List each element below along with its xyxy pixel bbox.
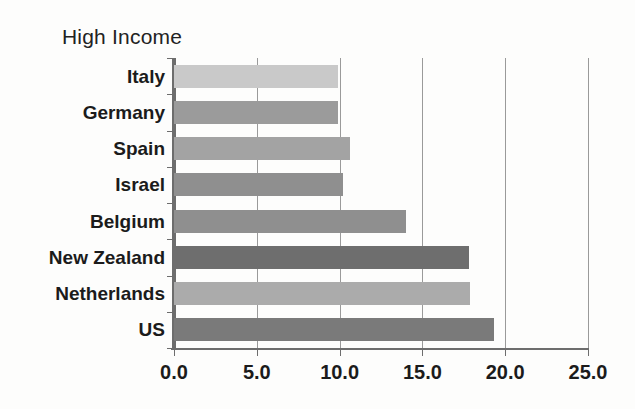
- y-tick: [167, 276, 174, 277]
- bar-new-zealand: [174, 246, 469, 269]
- bar-row: US: [174, 312, 588, 348]
- category-label-new-zealand: New Zealand: [49, 248, 165, 267]
- chart-title: High Income: [62, 25, 182, 49]
- category-label-us: US: [139, 320, 165, 339]
- category-label-netherlands: Netherlands: [55, 284, 165, 303]
- bar-israel: [174, 173, 343, 196]
- bar-row: Germany: [174, 94, 588, 130]
- bar-row: Italy: [174, 58, 588, 94]
- x-tick: [505, 348, 506, 356]
- x-tick: [174, 348, 175, 356]
- y-tick: [167, 239, 174, 240]
- x-tick: [340, 348, 341, 356]
- bar-row: Spain: [174, 131, 588, 167]
- gridline-25: [588, 58, 589, 348]
- y-tick: [167, 131, 174, 132]
- bar-row: Belgium: [174, 203, 588, 239]
- x-tick: [422, 348, 423, 356]
- bar-italy: [174, 65, 338, 88]
- x-tick: [588, 348, 589, 356]
- x-tick: [257, 348, 258, 356]
- y-tick: [167, 58, 174, 59]
- x-tick-label-20: 20.0: [486, 361, 525, 384]
- bar-chart: High Income ItalyGermanySpainIsraelBelgi…: [0, 0, 635, 409]
- category-label-germany: Germany: [83, 103, 165, 122]
- category-label-spain: Spain: [113, 139, 165, 158]
- x-tick-label-0: 0.0: [160, 361, 188, 384]
- bar-netherlands: [174, 282, 470, 305]
- x-tick-label-25: 25.0: [569, 361, 608, 384]
- bar-row: Netherlands: [174, 276, 588, 312]
- bar-spain: [174, 137, 350, 160]
- bar-us: [174, 318, 494, 341]
- bar-belgium: [174, 210, 406, 233]
- bar-row: Israel: [174, 167, 588, 203]
- x-tick-label-15: 15.0: [403, 361, 442, 384]
- category-label-italy: Italy: [127, 67, 165, 86]
- category-label-israel: Israel: [115, 175, 165, 194]
- plot-area: ItalyGermanySpainIsraelBelgiumNew Zealan…: [174, 58, 588, 348]
- bar-row: New Zealand: [174, 239, 588, 275]
- x-tick-label-10: 10.0: [320, 361, 359, 384]
- y-tick: [167, 167, 174, 168]
- bar-germany: [174, 101, 338, 124]
- bars-layer: ItalyGermanySpainIsraelBelgiumNew Zealan…: [174, 58, 588, 348]
- y-tick: [167, 312, 174, 313]
- x-tick-label-5: 5.0: [243, 361, 271, 384]
- y-tick: [167, 94, 174, 95]
- x-axis-line: [171, 348, 588, 350]
- y-tick: [167, 203, 174, 204]
- category-label-belgium: Belgium: [90, 212, 165, 231]
